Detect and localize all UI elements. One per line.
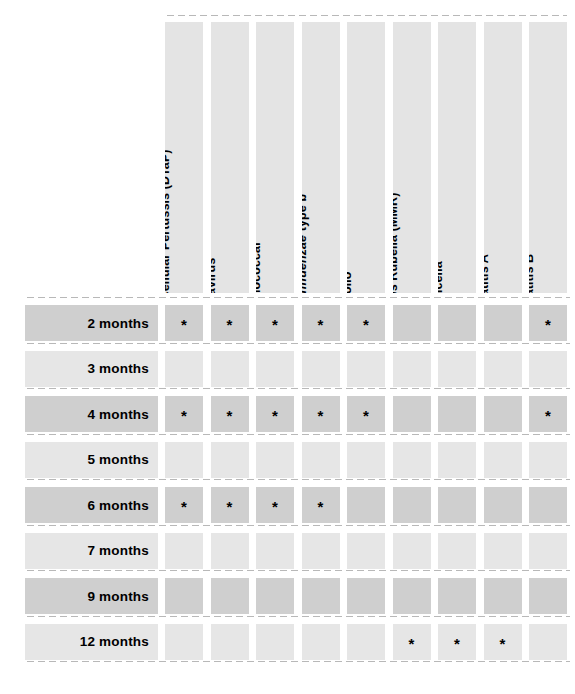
column-header-label-hib: Haemophilus influenzae type b: [302, 194, 321, 293]
cell-12-months-rotavirus: [211, 624, 249, 660]
cell-7-months-hepatitis_a: [484, 533, 522, 569]
cell-4-months-hepatitis_b: *: [529, 396, 567, 432]
dose-marker-asterisk: *: [181, 499, 187, 514]
row-label-5-months: 5 months: [25, 442, 158, 478]
dose-marker-asterisk: *: [545, 317, 551, 332]
cell-9-months-varicella: [438, 578, 476, 614]
dotted-separator-row-4-months: [25, 387, 570, 390]
cell-7-months-rotavirus: [211, 533, 249, 569]
cell-2-months-dtap: *: [165, 305, 203, 341]
dose-marker-asterisk: *: [181, 317, 187, 332]
serotype-suffix: type b: [302, 194, 309, 235]
cell-6-months-polio: [347, 487, 385, 523]
column-header-label-hepatitis_a: Hepatitis A: [484, 254, 503, 293]
cell-7-months-hib: [302, 533, 340, 569]
cell-12-months-polio: [347, 624, 385, 660]
species-name-italic: Haemophilus influenzae: [302, 235, 309, 293]
column-header-pneumococcal: Pneumococcal: [256, 22, 294, 293]
dose-marker-asterisk: *: [181, 408, 187, 423]
cell-6-months-dtap: *: [165, 487, 203, 523]
cell-4-months-hepatitis_a: [484, 396, 522, 432]
row-label-9-months: 9 months: [25, 578, 158, 614]
dose-marker-asterisk: *: [318, 499, 324, 514]
column-header-label-hepatitis_b: Hepatitis B: [529, 254, 548, 293]
cell-12-months-hib: [302, 624, 340, 660]
row-label-6-months: 6 months: [25, 487, 158, 523]
cell-6-months-hib: *: [302, 487, 340, 523]
cell-2-months-polio: *: [347, 305, 385, 341]
cell-6-months-varicella: [438, 487, 476, 523]
cell-6-months-hepatitis_b: [529, 487, 567, 523]
cell-12-months-varicella: *: [438, 624, 476, 660]
dose-marker-asterisk: *: [272, 408, 278, 423]
row-label-3-months: 3 months: [25, 351, 158, 387]
cell-2-months-hepatitis_a: [484, 305, 522, 341]
cell-12-months-dtap: [165, 624, 203, 660]
dose-marker-asterisk: *: [318, 408, 324, 423]
row-label-2-months: 2 months: [25, 305, 158, 341]
dotted-separator-table-bottom: [25, 660, 570, 663]
cell-3-months-hepatitis_a: [484, 351, 522, 387]
cell-4-months-rotavirus: *: [211, 396, 249, 432]
row-label-7-months: 7 months: [25, 533, 158, 569]
cell-4-months-mmr: [393, 396, 431, 432]
row-label-4-months: 4 months: [25, 396, 158, 432]
dotted-separator-row-2-months: [25, 296, 570, 299]
cell-12-months-mmr: *: [393, 624, 431, 660]
cell-3-months-dtap: [165, 351, 203, 387]
dose-marker-asterisk: *: [545, 408, 551, 423]
cell-3-months-hib: [302, 351, 340, 387]
cell-3-months-mmr: [393, 351, 431, 387]
row-label-12-months: 12 months: [25, 624, 158, 660]
column-header-polio: Polio: [347, 22, 385, 293]
cell-4-months-dtap: *: [165, 396, 203, 432]
cell-5-months-hib: [302, 442, 340, 478]
cell-6-months-hepatitis_a: [484, 487, 522, 523]
cell-5-months-polio: [347, 442, 385, 478]
column-header-label-varicella: Varicella: [438, 261, 457, 293]
cell-6-months-mmr: [393, 487, 431, 523]
cell-2-months-hepatitis_b: *: [529, 305, 567, 341]
dose-marker-asterisk: *: [272, 317, 278, 332]
column-header-rotavirus: Rotavirus: [211, 22, 249, 293]
cell-9-months-polio: [347, 578, 385, 614]
cell-2-months-mmr: [393, 305, 431, 341]
column-header-mmr: Measles Mumps Rubella (MMR): [393, 22, 431, 293]
column-header-dtap: Diphtheria Tetanus Acellular Pertussis (…: [165, 22, 203, 293]
dotted-separator-row-12-months: [25, 615, 570, 618]
cell-2-months-varicella: [438, 305, 476, 341]
column-header-label-dtap: Diphtheria Tetanus Acellular Pertussis (…: [165, 149, 184, 293]
dose-marker-asterisk: *: [227, 499, 233, 514]
cell-3-months-rotavirus: [211, 351, 249, 387]
dotted-separator-row-7-months: [25, 524, 570, 527]
cell-9-months-rotavirus: [211, 578, 249, 614]
dose-marker-asterisk: *: [272, 499, 278, 514]
cell-5-months-dtap: [165, 442, 203, 478]
cell-3-months-varicella: [438, 351, 476, 387]
cell-7-months-hepatitis_b: [529, 533, 567, 569]
cell-5-months-hepatitis_a: [484, 442, 522, 478]
cell-5-months-pneumococcal: [256, 442, 294, 478]
column-header-label-rotavirus: Rotavirus: [211, 258, 230, 293]
cell-9-months-hepatitis_b: [529, 578, 567, 614]
dose-marker-asterisk: *: [409, 636, 415, 651]
column-header-label-polio: Polio: [347, 271, 366, 293]
column-header-label-pneumococcal: Pneumococcal: [256, 242, 275, 293]
cell-9-months-pneumococcal: [256, 578, 294, 614]
cell-12-months-hepatitis_b: [529, 624, 567, 660]
cell-9-months-hib: [302, 578, 340, 614]
dotted-separator-row-6-months: [25, 478, 570, 481]
cell-7-months-mmr: [393, 533, 431, 569]
dotted-separator-header-top: [165, 14, 567, 17]
dose-marker-asterisk: *: [454, 636, 460, 651]
cell-5-months-varicella: [438, 442, 476, 478]
cell-3-months-pneumococcal: [256, 351, 294, 387]
cell-2-months-hib: *: [302, 305, 340, 341]
cell-4-months-pneumococcal: *: [256, 396, 294, 432]
cell-3-months-polio: [347, 351, 385, 387]
cell-2-months-pneumococcal: *: [256, 305, 294, 341]
dotted-separator-row-5-months: [25, 433, 570, 436]
column-header-hib: Haemophilus influenzae type b: [302, 22, 340, 293]
cell-4-months-hib: *: [302, 396, 340, 432]
cell-3-months-hepatitis_b: [529, 351, 567, 387]
